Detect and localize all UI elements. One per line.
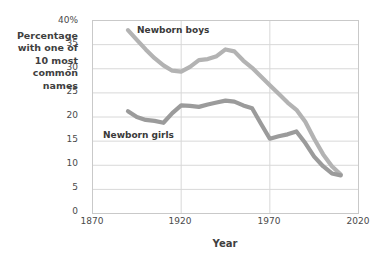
y-tick-label-35: 35 bbox=[44, 38, 78, 48]
y-tick-label-30: 30 bbox=[44, 62, 78, 72]
y-tick-label-15: 15 bbox=[44, 134, 78, 144]
y-tick-label-0: 0 bbox=[44, 206, 78, 216]
series-label-newborn-boys: Newborn boys bbox=[137, 25, 209, 35]
series-label-newborn-girls: Newborn girls bbox=[103, 130, 174, 140]
x-axis-title: Year bbox=[92, 238, 358, 249]
y-tick-label-20: 20 bbox=[44, 110, 78, 120]
series-paths bbox=[128, 30, 341, 175]
chart-figure: Percentage with one of 10 most common na… bbox=[0, 0, 379, 259]
x-tick-label-1970: 1970 bbox=[242, 216, 296, 226]
y-tick-label-5: 5 bbox=[44, 182, 78, 192]
y-tick-label-10: 10 bbox=[44, 158, 78, 168]
y-tick-label-25: 25 bbox=[44, 86, 78, 96]
y-tick-label-40: 40% bbox=[44, 15, 78, 25]
x-tick-label-1870: 1870 bbox=[65, 216, 119, 226]
x-tick-label-2020: 2020 bbox=[331, 216, 379, 226]
x-tick-label-1920: 1920 bbox=[153, 216, 207, 226]
